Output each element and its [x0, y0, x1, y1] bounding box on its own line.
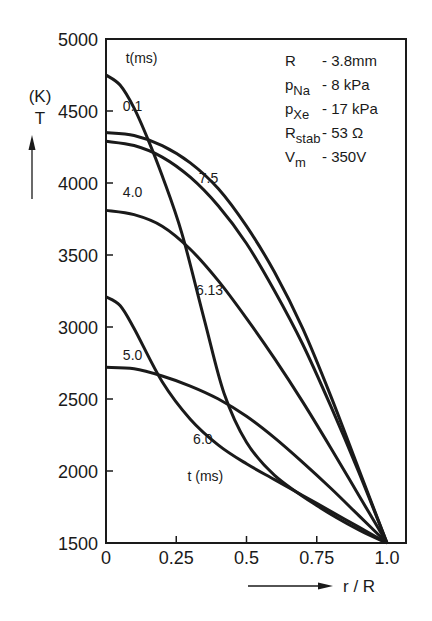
param-value: - 8 kPa	[322, 76, 370, 93]
param-value: - 350V	[322, 148, 366, 165]
param-name: Vm	[285, 148, 306, 170]
temperature-profile-chart: 1500200025003000350040004500500000.250.5…	[0, 0, 432, 621]
param-name: pNa	[285, 76, 311, 98]
curve-t-4.0	[106, 210, 387, 543]
y-tick-label: 4000	[58, 174, 98, 194]
curve-t-0.1	[106, 133, 387, 543]
y-tick-label: 1500	[58, 534, 98, 554]
curve-label: 5.0	[123, 347, 143, 363]
parameter-box: R- 3.8mmpNa- 8 kPapXe- 17 kPaRstab- 53 Ω…	[285, 52, 379, 170]
y-tick-label: 4500	[58, 102, 98, 122]
param-value: - 3.8mm	[322, 52, 377, 69]
curve-t-5.0	[106, 367, 387, 543]
x-tick-label: 0.5	[234, 548, 259, 568]
x-axis-label: r / R	[343, 577, 375, 596]
y-tick-label: 2000	[58, 462, 98, 482]
curves	[106, 75, 387, 543]
x-axis-arrow-icon	[248, 583, 333, 590]
curve-t-6.0	[106, 297, 387, 543]
param-name: pXe	[285, 100, 309, 122]
y-axis-arrow-icon	[29, 135, 36, 199]
curve-label: t (ms)	[187, 468, 223, 484]
curve-label: 6.0	[193, 431, 213, 447]
curve-label: 0.1	[123, 98, 143, 114]
param-value: - 53 Ω	[322, 124, 363, 141]
x-tick-label: 1.0	[374, 548, 399, 568]
curve-label: 4.0	[123, 184, 143, 200]
param-name: Rstab	[285, 124, 320, 146]
y-tick-label: 5000	[58, 30, 98, 50]
curve-t-7.5	[106, 141, 387, 543]
x-tick-label: 0	[101, 548, 111, 568]
curve-label: 6.13	[196, 282, 223, 298]
param-name: R	[285, 52, 296, 69]
curve-label: t(ms)	[126, 50, 158, 66]
param-value: - 17 kPa	[322, 100, 379, 117]
y-unit-label: (K)	[29, 87, 52, 106]
x-tick-label: 0.75	[299, 548, 334, 568]
y-tick-label: 3500	[58, 246, 98, 266]
curve-label: 7.5	[199, 170, 219, 186]
y-tick-label: 3000	[58, 318, 98, 338]
y-tick-label: 2500	[58, 390, 98, 410]
x-tick-label: 0.25	[159, 548, 194, 568]
y-axis-label: T	[35, 109, 45, 128]
